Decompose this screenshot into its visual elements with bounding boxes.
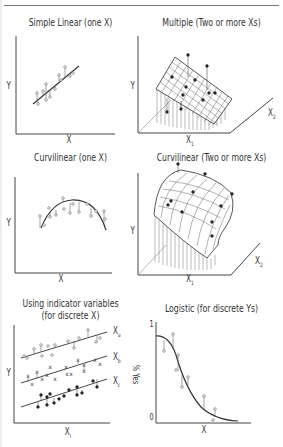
svg-text:x: x xyxy=(64,363,68,370)
panel-simple-linear: Simple Linear (one X) Y X xyxy=(0,0,141,147)
multiple-regression-plot xyxy=(141,0,282,147)
y-axis-label: Y xyxy=(131,225,135,236)
svg-text:x: x xyxy=(53,375,57,382)
panel-curvilinear-multi: Curvilinear (Two or more Xs) Y X1 X2 xyxy=(141,145,282,292)
logistic-plot xyxy=(141,295,282,447)
panel-logistic: Logistic (for discrete Ys) % Yes 1 0 X xyxy=(141,295,282,447)
y-axis-label: Y xyxy=(131,80,135,91)
svg-text:x: x xyxy=(69,370,73,377)
panel-indicator-variables: Using indicator variables (for discrete … xyxy=(0,295,141,447)
svg-text:x: x xyxy=(93,356,97,363)
curvilinear-surface-plot xyxy=(141,145,282,292)
indicator-plot: xx xx xx xx xx xx xx x xyxy=(0,295,141,447)
curvilinear-plot xyxy=(0,145,141,292)
panel-curvilinear-one: Curvilinear (one X) Y X xyxy=(0,145,141,292)
svg-text:x: x xyxy=(45,371,49,378)
simple-linear-plot xyxy=(0,0,141,147)
svg-text:x: x xyxy=(98,360,102,367)
svg-text:x: x xyxy=(40,375,44,382)
svg-text:x: x xyxy=(30,380,34,387)
panel-multiple: Multiple (Two or more Xs) Y X1 X2 xyxy=(141,0,282,147)
svg-text:x: x xyxy=(48,363,52,370)
